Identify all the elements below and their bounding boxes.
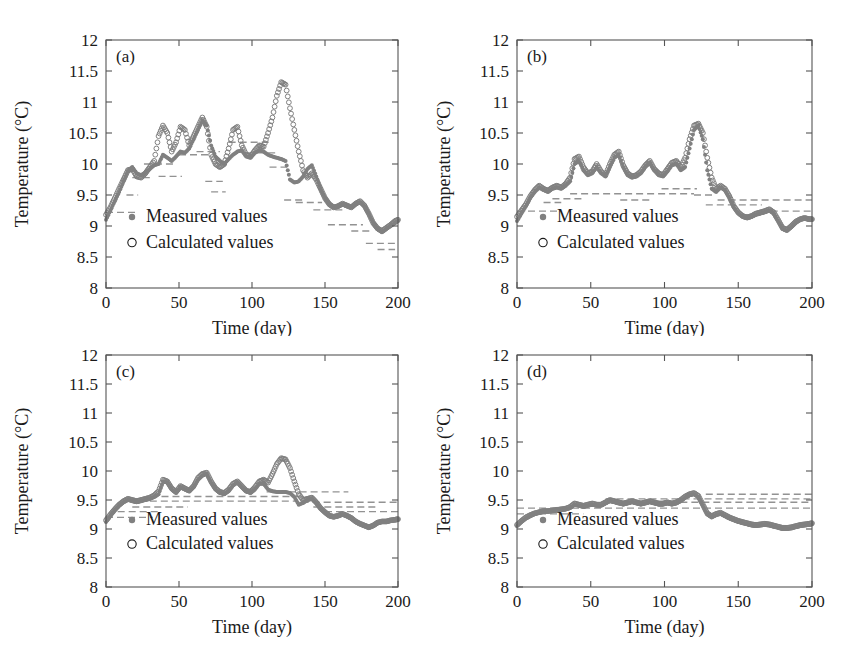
x-tick-label: 150 [726, 592, 752, 611]
y-tick-label: 8.5 [488, 549, 509, 568]
x-tick-label: 150 [726, 293, 752, 312]
x-axis-title: Time (day) [625, 617, 705, 638]
y-tick-label: 8 [501, 578, 510, 597]
x-axis-title: Time (day) [625, 318, 705, 336]
y-tick-label: 11 [82, 93, 98, 112]
x-tick-label: 100 [652, 293, 678, 312]
y-axis-title: Temperature (°C) [12, 101, 33, 227]
y-tick-label: 10 [492, 155, 509, 174]
legend-label-measured: Measured values [146, 206, 267, 226]
y-tick-label: 12 [492, 346, 509, 365]
y-tick-label: 10.5 [479, 433, 509, 452]
x-tick-label: 0 [102, 592, 111, 611]
y-tick-label: 10.5 [479, 124, 509, 143]
y-tick-label: 9 [501, 520, 510, 539]
x-tick-label: 100 [239, 592, 265, 611]
legend-marker-measured [129, 517, 135, 523]
y-tick-label: 11.5 [69, 62, 98, 81]
x-tick-label: 200 [385, 293, 411, 312]
y-tick-label: 12 [492, 31, 509, 50]
legend-label-calculated: Calculated values [146, 232, 273, 252]
y-tick-label: 8 [501, 279, 510, 298]
legend-label-calculated: Calculated values [557, 232, 684, 252]
y-tick-label: 8.5 [488, 248, 509, 267]
x-tick-label: 100 [652, 592, 678, 611]
y-axis-title: Temperature (°C) [434, 408, 455, 534]
x-tick-label: 150 [312, 592, 338, 611]
x-tick-label: 0 [513, 592, 522, 611]
legend-label-measured: Measured values [146, 509, 267, 529]
y-tick-label: 9.5 [488, 186, 509, 205]
panel-tag: (a) [116, 47, 135, 66]
y-tick-label: 10 [492, 462, 509, 481]
y-tick-label: 12 [81, 31, 98, 50]
y-tick-label: 8 [90, 578, 99, 597]
x-tick-label: 50 [582, 293, 599, 312]
panel-a: 050100150200Time (day)88.599.51010.51111… [0, 0, 428, 336]
y-tick-label: 10 [81, 462, 98, 481]
y-tick-label: 9 [90, 217, 99, 236]
panel-tag: (b) [527, 47, 547, 66]
x-tick-label: 200 [385, 592, 411, 611]
y-tick-label: 8.5 [77, 248, 98, 267]
panel-tag: (d) [527, 362, 547, 381]
y-tick-label: 11 [493, 93, 509, 112]
panel-tag: (c) [116, 362, 135, 381]
x-tick-label: 50 [171, 293, 188, 312]
y-tick-label: 11.5 [480, 62, 509, 81]
y-tick-label: 11.5 [69, 375, 98, 394]
y-tick-label: 9 [90, 520, 99, 539]
x-tick-label: 0 [513, 293, 522, 312]
x-tick-label: 50 [171, 592, 188, 611]
legend-label-measured: Measured values [557, 206, 678, 226]
y-tick-label: 11 [493, 404, 509, 423]
x-tick-label: 150 [312, 293, 338, 312]
y-tick-label: 9.5 [77, 186, 98, 205]
x-tick-label: 100 [239, 293, 265, 312]
x-tick-label: 200 [799, 592, 825, 611]
panel-c: 050100150200Time (day)88.599.51010.51111… [0, 336, 428, 670]
y-tick-label: 9.5 [488, 491, 509, 510]
y-tick-label: 12 [81, 346, 98, 365]
y-tick-label: 8.5 [77, 549, 98, 568]
y-tick-label: 11.5 [480, 375, 509, 394]
y-tick-label: 11 [82, 404, 98, 423]
legend-marker-measured [540, 214, 546, 220]
legend-label-calculated: Calculated values [557, 533, 684, 553]
y-tick-label: 8 [90, 279, 99, 298]
panel-b: 050100150200Time (day)88.599.51010.51111… [428, 0, 857, 336]
legend-marker-measured [540, 517, 546, 523]
x-tick-label: 200 [799, 293, 825, 312]
y-tick-label: 9.5 [77, 491, 98, 510]
x-tick-label: 50 [582, 592, 599, 611]
legend-label-measured: Measured values [557, 509, 678, 529]
legend-label-calculated: Calculated values [146, 533, 273, 553]
y-tick-label: 10.5 [68, 124, 98, 143]
legend-marker-measured [129, 214, 135, 220]
y-axis-title: Temperature (°C) [434, 101, 455, 227]
y-tick-label: 9 [501, 217, 510, 236]
x-axis-title: Time (day) [212, 617, 292, 638]
x-tick-label: 0 [102, 293, 111, 312]
figure-root: 050100150200Time (day)88.599.51010.51111… [0, 0, 857, 670]
y-axis-title: Temperature (°C) [12, 408, 33, 534]
y-tick-label: 10 [81, 155, 98, 174]
panel-d: 050100150200Time (day)88.599.51010.51111… [428, 336, 857, 670]
y-tick-label: 10.5 [68, 433, 98, 452]
x-axis-title: Time (day) [212, 318, 292, 336]
